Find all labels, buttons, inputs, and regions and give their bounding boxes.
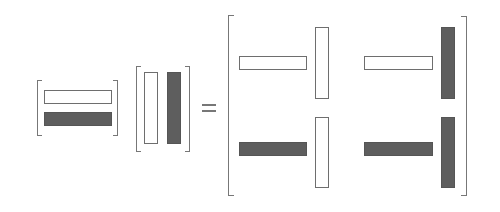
cell-1-0-horizontal-bar xyxy=(239,142,307,156)
right-matrix-dark-column-bar xyxy=(167,72,181,144)
left-matrix-dark-row-bar xyxy=(44,112,112,126)
cell-0-1-vertical-bar xyxy=(441,27,455,99)
left-matrix-open-bracket xyxy=(37,80,42,136)
equals-bottom-line xyxy=(202,110,216,112)
right-matrix-open-bracket xyxy=(136,66,141,152)
cell-0-0-vertical-bar xyxy=(315,27,329,99)
cell-1-0-vertical-bar xyxy=(315,117,329,188)
result-matrix-close-bracket xyxy=(461,16,467,196)
equals-top-line xyxy=(202,104,216,106)
right-matrix-white-column-bar xyxy=(144,72,158,144)
result-matrix-open-bracket xyxy=(228,15,234,196)
cell-1-1-horizontal-bar xyxy=(364,142,433,156)
left-matrix-white-row-bar xyxy=(44,90,112,104)
cell-0-1-horizontal-bar xyxy=(364,56,433,70)
cell-1-1-vertical-bar xyxy=(441,117,455,188)
right-matrix-close-bracket xyxy=(185,66,190,152)
cell-0-0-horizontal-bar xyxy=(239,56,307,70)
left-matrix-close-bracket xyxy=(113,80,118,136)
